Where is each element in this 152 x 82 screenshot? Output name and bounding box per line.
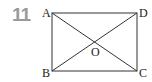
intersection-label-o: O — [91, 45, 100, 59]
vertex-label-a: A — [42, 6, 51, 20]
vertex-label-b: B — [42, 66, 50, 80]
vertex-label-c: C — [139, 66, 147, 80]
vertex-label-d: D — [139, 6, 148, 20]
rectangle-diagram: A D B C O — [0, 0, 152, 82]
